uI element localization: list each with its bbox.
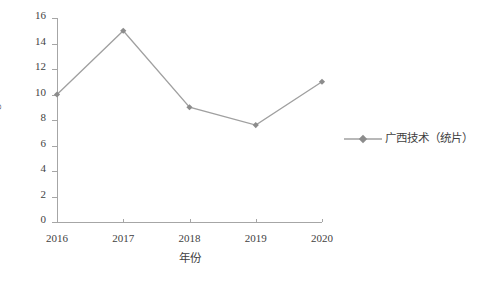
chart-legend: 广西技术（统片） [344, 132, 473, 145]
plot-area [57, 18, 322, 222]
x-axis-line [57, 222, 322, 223]
x-axis-tick-label: 2018 [164, 232, 216, 244]
y-axis-title: 单价（元·kg-1） [0, 60, 1, 190]
y-axis-tick-label: 4 [41, 163, 47, 174]
x-axis-tick-label: 2016 [31, 232, 83, 244]
series-line-guangxi [57, 18, 322, 222]
y-axis-tick-mark [52, 222, 57, 223]
y-axis-tick-label: 16 [35, 10, 46, 21]
y-axis-tick-label: 2 [41, 189, 47, 200]
x-axis-tick-label: 2019 [230, 232, 282, 244]
chart-figure: 单价（元·kg-1） 1614121086420 201620172018201… [0, 0, 486, 284]
series-polyline [57, 31, 322, 125]
legend-marker-icon [344, 133, 382, 145]
x-axis-tick-mark [322, 219, 323, 222]
x-axis-title: 年份 [57, 252, 322, 265]
x-axis-tick-label: 2020 [296, 232, 348, 244]
y-axis-tick-label: 12 [35, 61, 46, 72]
legend-label-guangxi: 广西技术（统片） [385, 132, 473, 145]
y-axis-tick-label: 6 [41, 138, 47, 149]
y-axis-tick-label: 0 [41, 214, 47, 225]
y-axis-tick-label: 14 [35, 36, 46, 47]
x-axis-tick-label: 2017 [97, 232, 149, 244]
y-axis-tick-label: 8 [41, 112, 47, 123]
y-axis-tick-label: 10 [35, 87, 46, 98]
